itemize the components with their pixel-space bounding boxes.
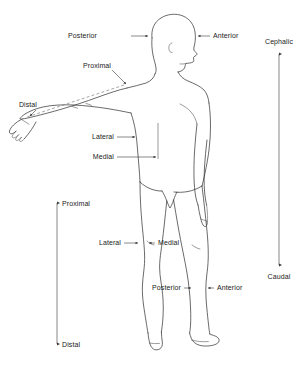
leader-torso-medial (117, 123, 158, 159)
label-arm-distal: Distal (19, 101, 37, 109)
label-body-cephalic: Cephalic (265, 38, 293, 46)
human-figure-outline (9, 14, 219, 350)
leader-arm-proximal (112, 70, 126, 84)
label-body-caudal: Caudal (268, 273, 291, 281)
label-leg-posterior: Posterior (152, 284, 181, 292)
label-leg-anterior: Anterior (217, 284, 242, 292)
label-arm-proximal: Proximal (83, 62, 111, 70)
label-torso-medial: Medial (93, 153, 114, 161)
label-leg-lateral: Lateral (99, 239, 121, 247)
label-leg-axis-distal: Distal (62, 341, 80, 349)
anatomical-diagram: Posterior Anterior Proximal Distal Later… (0, 0, 307, 365)
figure-drawing (0, 0, 307, 365)
label-torso-lateral: Lateral (92, 133, 114, 141)
label-head-anterior: Anterior (213, 32, 238, 40)
proximal-distal-arm-axis (27, 85, 124, 117)
label-head-posterior: Posterior (68, 32, 97, 40)
label-leg-medial: Medial (158, 239, 179, 247)
label-leg-axis-proximal: Proximal (62, 200, 90, 208)
